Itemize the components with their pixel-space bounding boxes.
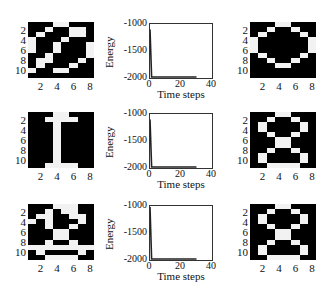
pixel-cell bbox=[283, 73, 291, 78]
pixel-cell bbox=[78, 163, 86, 168]
x-tick-label: 6 bbox=[289, 263, 301, 274]
energy-tick-label: -1000 bbox=[113, 18, 147, 28]
energy-tick-label: -1000 bbox=[113, 108, 147, 118]
pattern-grid-row2-right bbox=[250, 112, 316, 168]
pixel-cell bbox=[291, 163, 299, 168]
energy-curve bbox=[150, 206, 212, 260]
pixel-cell bbox=[275, 163, 283, 168]
x-tick-label: 8 bbox=[84, 171, 96, 182]
energy-tick-label: -1500 bbox=[113, 45, 147, 55]
energy-plot-row1-middle bbox=[149, 23, 213, 79]
pixel-cell bbox=[300, 255, 308, 260]
pixel-cell bbox=[250, 73, 258, 78]
pattern-grid-row1-left bbox=[28, 22, 94, 78]
y-axis-label: Energy bbox=[103, 126, 115, 158]
x-tick-label: 2 bbox=[34, 263, 46, 274]
pixel-cell bbox=[28, 163, 36, 168]
x-tick-label: 6 bbox=[67, 263, 79, 274]
pixel-cell bbox=[61, 73, 69, 78]
pattern-grid-row2-left bbox=[28, 112, 94, 168]
x-tick-label: 6 bbox=[289, 171, 301, 182]
pixel-cell bbox=[275, 255, 283, 260]
energy-curve bbox=[150, 114, 212, 168]
y-tick-label: 10 bbox=[232, 247, 248, 258]
x-tick-label: 8 bbox=[306, 171, 318, 182]
pixel-cell bbox=[36, 255, 44, 260]
x-tick-label: 2 bbox=[256, 81, 268, 92]
pixel-cell bbox=[45, 255, 53, 260]
energy-plot-row3-middle bbox=[149, 205, 213, 261]
pixel-cell bbox=[267, 73, 275, 78]
pixel-cell bbox=[308, 255, 316, 260]
x-tick-label: 2 bbox=[34, 171, 46, 182]
pixel-cell bbox=[250, 255, 258, 260]
y-tick-label: 10 bbox=[10, 65, 26, 76]
pattern-grid-row3-left bbox=[28, 204, 94, 260]
pattern-grid-row3-right bbox=[250, 204, 316, 260]
x-tick-label: 4 bbox=[273, 171, 285, 182]
pixel-cell bbox=[78, 73, 86, 78]
pixel-cell bbox=[258, 255, 266, 260]
pixel-cell bbox=[53, 255, 61, 260]
x-tick-label: 8 bbox=[84, 263, 96, 274]
pixel-cell bbox=[291, 255, 299, 260]
pixel-cell bbox=[300, 163, 308, 168]
x-tick-label: 6 bbox=[289, 81, 301, 92]
x-tick-label: 2 bbox=[256, 263, 268, 274]
x-axis-label: Time steps bbox=[141, 88, 221, 100]
y-axis-label: Energy bbox=[103, 36, 115, 68]
energy-plot-row2-middle bbox=[149, 113, 213, 169]
pixel-cell bbox=[250, 163, 258, 168]
pixel-cell bbox=[61, 163, 69, 168]
x-tick-label: 4 bbox=[51, 81, 63, 92]
x-tick-label: 8 bbox=[306, 263, 318, 274]
pixel-cell bbox=[45, 163, 53, 168]
pixel-cell bbox=[300, 73, 308, 78]
x-tick-label: 4 bbox=[273, 81, 285, 92]
x-tick-label: 2 bbox=[34, 81, 46, 92]
x-axis-label: Time steps bbox=[141, 270, 221, 282]
y-tick-label: 10 bbox=[232, 65, 248, 76]
pixel-cell bbox=[283, 163, 291, 168]
pixel-cell bbox=[86, 255, 94, 260]
pattern-grid-row1-right bbox=[250, 22, 316, 78]
pixel-cell bbox=[69, 163, 77, 168]
pixel-cell bbox=[258, 163, 266, 168]
y-tick-label: 10 bbox=[10, 247, 26, 258]
pixel-cell bbox=[308, 163, 316, 168]
pixel-cell bbox=[28, 73, 36, 78]
x-axis-label: Time steps bbox=[141, 178, 221, 190]
x-tick-label: 4 bbox=[51, 263, 63, 274]
x-tick-label: 6 bbox=[67, 171, 79, 182]
pixel-cell bbox=[291, 73, 299, 78]
pixel-cell bbox=[61, 255, 69, 260]
pixel-cell bbox=[36, 163, 44, 168]
x-tick-label: 2 bbox=[256, 171, 268, 182]
y-axis-label: Energy bbox=[103, 218, 115, 250]
energy-tick-label: -1500 bbox=[113, 227, 147, 237]
pixel-cell bbox=[69, 255, 77, 260]
pixel-cell bbox=[86, 73, 94, 78]
pixel-cell bbox=[283, 255, 291, 260]
y-tick-label: 10 bbox=[10, 155, 26, 166]
energy-curve bbox=[150, 24, 212, 78]
y-tick-label: 10 bbox=[232, 155, 248, 166]
pixel-cell bbox=[78, 255, 86, 260]
pixel-cell bbox=[267, 255, 275, 260]
pixel-cell bbox=[28, 255, 36, 260]
x-tick-label: 4 bbox=[51, 171, 63, 182]
pixel-cell bbox=[308, 73, 316, 78]
x-tick-label: 4 bbox=[273, 263, 285, 274]
x-tick-label: 6 bbox=[67, 81, 79, 92]
pixel-cell bbox=[36, 73, 44, 78]
pixel-cell bbox=[86, 163, 94, 168]
x-tick-label: 8 bbox=[306, 81, 318, 92]
energy-tick-label: -1500 bbox=[113, 135, 147, 145]
x-tick-label: 8 bbox=[84, 81, 96, 92]
pixel-cell bbox=[69, 73, 77, 78]
energy-tick-label: -1000 bbox=[113, 200, 147, 210]
pixel-cell bbox=[53, 73, 61, 78]
pixel-cell bbox=[267, 163, 275, 168]
pixel-cell bbox=[275, 73, 283, 78]
pixel-cell bbox=[45, 73, 53, 78]
